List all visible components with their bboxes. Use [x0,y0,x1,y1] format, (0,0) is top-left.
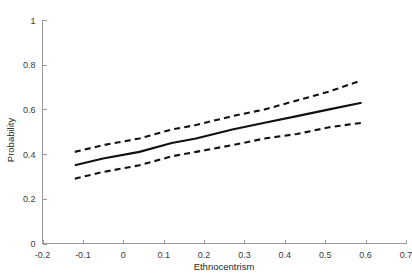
fitted-line [75,103,362,166]
x-tick-label: 0.1 [157,250,170,260]
y-tick-label: 0 [30,239,35,249]
confidence-band-line [75,80,362,152]
y-tick-label: 0.8 [23,60,36,70]
chart-plot-area: -0.2-0.100.10.20.30.40.50.60.7 00.20.40.… [0,0,412,277]
x-tick-label: 0.3 [238,250,251,260]
y-tick-label: 0.2 [23,194,36,204]
x-tick-label: 0.7 [400,250,412,260]
x-axis-ticks: -0.2-0.100.10.20.30.40.50.60.7 [35,240,412,260]
chart-container: -0.2-0.100.10.20.30.40.50.60.7 00.20.40.… [0,0,412,277]
y-tick-label: 1 [30,16,35,26]
confidence-band-line [75,123,362,179]
y-axis-title: Probability [5,118,16,163]
y-tick-label: 0.4 [23,150,36,160]
x-tick-label: -0.2 [35,250,51,260]
x-tick-label: 0.4 [279,250,292,260]
y-tick-label: 0.6 [23,105,36,115]
x-tick-label: 0.6 [359,250,372,260]
x-axis-title: Ethnocentrism [194,261,255,272]
x-tick-label: 0 [121,250,126,260]
x-tick-label: 0.5 [319,250,332,260]
data-series-group [75,80,362,178]
x-tick-label: -0.1 [75,250,91,260]
x-tick-label: 0.2 [198,250,211,260]
